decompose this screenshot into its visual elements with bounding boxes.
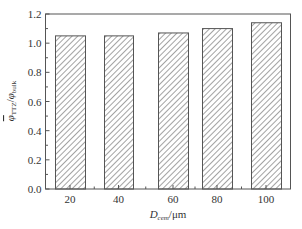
x-tick-label: 20 bbox=[65, 193, 77, 205]
y-tick-label: 0.4 bbox=[28, 125, 42, 137]
bar-chart: 0.00.20.40.60.81.01.2 20406080100 Dcem/μ… bbox=[0, 0, 302, 229]
y-tick-label: 0.6 bbox=[28, 96, 42, 108]
x-tick-label: 100 bbox=[258, 193, 275, 205]
y-axis: 0.00.20.40.60.81.01.2 bbox=[28, 8, 50, 195]
x-tick-label: 80 bbox=[212, 193, 224, 205]
y-tick-label: 0.8 bbox=[28, 66, 42, 78]
bars bbox=[56, 23, 282, 189]
y-tick-label: 1.0 bbox=[28, 37, 42, 49]
bar-40 bbox=[105, 36, 134, 189]
bar-80 bbox=[203, 29, 233, 189]
y-tick-label: 1.2 bbox=[28, 8, 42, 20]
y-tick-label: 0.0 bbox=[28, 183, 42, 195]
x-tick-label: 40 bbox=[113, 193, 125, 205]
y-tick-label: 0.2 bbox=[28, 154, 42, 166]
x-axis-label: Dcem/μm bbox=[149, 208, 187, 222]
bar-20 bbox=[56, 36, 86, 189]
bar-60 bbox=[159, 33, 189, 189]
x-tick-label: 60 bbox=[168, 193, 180, 205]
bar-100 bbox=[252, 23, 282, 189]
y-axis-label: φTTZ/φbulk bbox=[4, 80, 18, 121]
